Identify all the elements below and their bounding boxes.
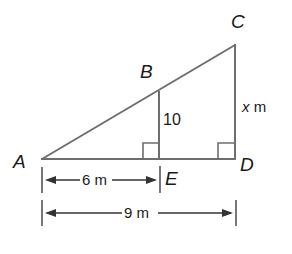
segment-length-label-BE: 10 xyxy=(163,112,181,128)
segment-hypotenuse-AC xyxy=(42,45,235,159)
vertex-label-E: E xyxy=(165,169,178,188)
variable-x: x xyxy=(242,98,250,115)
vertex-label-A: A xyxy=(13,152,26,171)
vertex-label-B: B xyxy=(140,62,153,81)
right-angle-mark-at-E xyxy=(143,143,159,159)
dimension-9m-arrowhead-left xyxy=(45,209,56,217)
dimension-label-6m: 6 m xyxy=(82,172,107,187)
dimension-6m-arrowhead-right xyxy=(146,176,157,184)
dimension-9m-arrowhead-right xyxy=(222,209,233,217)
geometry-diagram: A B C D E 10 x m 6 m 9 m xyxy=(0,0,292,254)
dimension-6m-arrowhead-left xyxy=(45,176,56,184)
unit-metres: m xyxy=(254,98,267,115)
right-angle-mark-at-D xyxy=(218,143,234,159)
dimension-label-9m: 9 m xyxy=(124,205,149,220)
vertex-label-D: D xyxy=(240,155,254,174)
vertex-label-C: C xyxy=(231,12,245,31)
segment-length-label-CD: x m xyxy=(242,99,266,114)
